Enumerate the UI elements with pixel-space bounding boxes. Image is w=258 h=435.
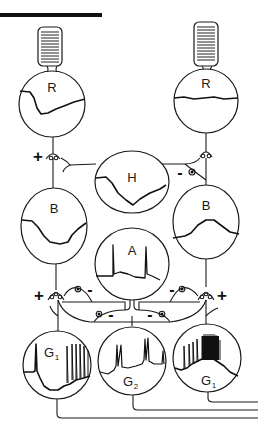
ganglion-right: G 1: [173, 324, 258, 402]
a-to-b-right-synapse: -: [169, 281, 184, 298]
cell-subscript: 2: [134, 382, 139, 391]
axon: [208, 392, 258, 402]
receptor-left: R: [19, 27, 85, 154]
receptor-right: R: [174, 22, 238, 152]
h-to-b-right-synapse: -: [177, 164, 195, 181]
excitatory-sign: +: [34, 286, 44, 305]
horizontal-process-left: [61, 158, 70, 172]
receptor-left-terminal: +: [33, 147, 60, 166]
inhibitory-sign: -: [177, 164, 182, 181]
cell-label: A: [128, 243, 137, 258]
bipolar-right: B: [173, 185, 239, 287]
inhibitory-sign: -: [87, 281, 92, 298]
cell-label: R: [201, 76, 210, 91]
bipolar-left: B: [21, 188, 87, 290]
stimulus-bar: [0, 13, 102, 17]
retina-circuit-diagram: R R +: [0, 0, 258, 435]
receptor-right-terminal: [200, 152, 212, 158]
soma: [95, 228, 169, 300]
cell-label: H: [127, 170, 136, 185]
cell-label: G: [44, 345, 54, 360]
cell-label: B: [202, 198, 211, 213]
bipolar-right-terminal: +: [198, 286, 227, 305]
a-to-g-left-synapse: -: [96, 306, 113, 323]
bipolar-left-terminal: +: [34, 286, 64, 305]
inhibitory-sign: -: [147, 306, 152, 323]
outer-segment: [194, 22, 218, 66]
cell-subscript: 1: [55, 353, 60, 362]
soma: [173, 185, 239, 259]
a-to-g-right-synapse: -: [147, 306, 164, 323]
inhibitory-sign: -: [108, 306, 113, 323]
excitatory-sign: +: [217, 286, 227, 305]
inhibitory-sign: -: [169, 281, 174, 298]
cell-label: B: [50, 201, 59, 216]
a-to-b-left-synapse: -: [75, 281, 92, 298]
cell-label: G: [123, 374, 133, 389]
amacrine-cell: A: [95, 228, 169, 310]
cell-label: R: [47, 80, 56, 95]
excitatory-sign: +: [33, 147, 43, 166]
diagram-canvas: R R +: [0, 0, 258, 435]
horizontal-cell: H: [95, 151, 169, 213]
soma: [21, 188, 87, 264]
cell-label: G: [201, 373, 211, 388]
cell-subscript: 1: [212, 381, 217, 390]
